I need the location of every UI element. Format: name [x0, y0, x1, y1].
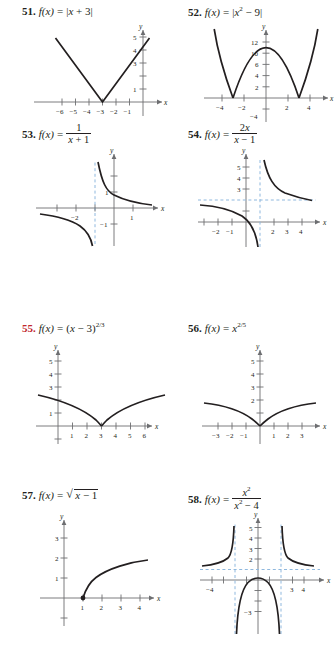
svg-text:1: 1 — [49, 410, 53, 418]
problem-58-statement: 58.f(x)=x2x2 − 4 — [188, 486, 261, 510]
svg-text:−1: −1 — [100, 221, 108, 229]
svg-text:5: 5 — [249, 525, 253, 533]
fraction-denominator: x + 1 — [66, 134, 91, 145]
problem-58-equals: = — [220, 493, 232, 505]
svg-text:12: 12 — [251, 39, 259, 47]
problem-54-fraction: 2xx − 1 — [232, 122, 257, 145]
graph-52-svg: x y −4 −2 2 4 2 — [196, 24, 336, 124]
svg-text:4: 4 — [133, 47, 137, 55]
graph-57-svg: x y 1 2 3 4 1 2 3 — [26, 510, 171, 635]
x-axis-arrow — [153, 206, 158, 211]
svg-text:3: 3 — [249, 546, 253, 554]
svg-text:−6: −6 — [56, 108, 64, 116]
x-axis-label: x — [163, 98, 168, 107]
problem-55-fn: f(x) — [39, 322, 54, 334]
x-tick-labels: −2 −1 2 3 4 — [212, 228, 303, 236]
problem-56-number: 56. — [188, 322, 205, 334]
x-axis-label: x — [326, 576, 331, 585]
graph-55-svg: x y 1 2 3 4 5 6 — [24, 344, 169, 449]
curve-left-branch — [40, 214, 93, 246]
y-axis-label: y — [241, 148, 246, 155]
problem-57-radical: x − 1 — [66, 489, 98, 501]
svg-text:4: 4 — [255, 72, 259, 80]
x-axis-arrow — [157, 100, 162, 105]
svg-text:3: 3 — [300, 432, 304, 440]
svg-text:3: 3 — [133, 60, 137, 68]
svg-text:3: 3 — [251, 384, 255, 392]
svg-text:3: 3 — [237, 186, 241, 194]
graph-53-svg: x y −2 1 1 −1 — [26, 148, 171, 250]
problem-52-statement: 52.f(x)=|x2 − 9| — [188, 6, 262, 18]
svg-text:−1: −1 — [240, 432, 248, 440]
problem-57-statement: 57.f(x)=x − 1 — [22, 489, 98, 501]
svg-text:2: 2 — [255, 84, 259, 92]
svg-text:4: 4 — [49, 371, 53, 379]
svg-text:2: 2 — [286, 432, 290, 440]
graph-54-svg: x y −2 −1 2 3 4 — [190, 148, 335, 250]
svg-text:−4: −4 — [83, 108, 91, 116]
y-axis-label: y — [253, 510, 258, 519]
x-axis-label: x — [154, 422, 159, 431]
svg-text:3: 3 — [49, 384, 53, 392]
exercise-page: 51.f(x)=|x + 3| x y −6 −5 −4 — [0, 0, 336, 645]
x-axis-arrow — [315, 220, 320, 225]
svg-text:5: 5 — [251, 358, 255, 366]
y-axis-label: y — [261, 24, 266, 31]
problem-56-expression: x2/5 — [232, 322, 246, 334]
x-axis-arrow — [315, 424, 320, 429]
x-axis-label: x — [322, 218, 327, 227]
svg-text:1: 1 — [70, 432, 74, 440]
svg-text:−2: −2 — [212, 228, 220, 236]
svg-text:3: 3 — [285, 228, 289, 236]
svg-text:2: 2 — [271, 228, 275, 236]
problem-56-fn: f(x) — [205, 322, 220, 334]
x-tick-labels: −3 −2 −1 1 2 3 — [212, 432, 304, 440]
x-tick-labels: 1 2 3 4 — [81, 604, 142, 612]
svg-text:2: 2 — [249, 556, 253, 564]
svg-text:−3: −3 — [212, 432, 220, 440]
svg-text:−3: −3 — [244, 609, 252, 617]
radicand: x − 1 — [74, 489, 98, 501]
fraction-denominator: x − 1 — [232, 134, 257, 145]
problem-55-expression: (x − 3)2/3 — [66, 322, 104, 334]
svg-text:2: 2 — [55, 555, 59, 563]
curve-outer-left — [202, 526, 234, 566]
svg-text:−2: −2 — [110, 108, 118, 116]
svg-text:−2: −2 — [71, 214, 79, 222]
problem-52-number: 52. — [188, 6, 205, 18]
x-tick-labels: −6 −5 −4 −3 −2 −1 — [56, 108, 131, 116]
x-tick-labels: −4 3 4 — [206, 586, 306, 594]
graph-51: x y −6 −5 −4 −3 −2 −1 — [30, 24, 170, 118]
svg-text:5: 5 — [49, 358, 53, 366]
graph-52: x y −4 −2 2 4 2 — [196, 24, 336, 124]
svg-text:1: 1 — [272, 432, 276, 440]
svg-text:2: 2 — [251, 397, 255, 405]
graph-56: x y −3 −2 −1 1 2 3 — [192, 344, 336, 449]
svg-text:−2: −2 — [226, 432, 234, 440]
graph-57: x y 1 2 3 4 1 2 3 — [26, 510, 171, 635]
svg-text:4: 4 — [251, 371, 255, 379]
problem-51-expression: |x + 3| — [66, 5, 93, 17]
x-axis-arrow — [319, 578, 324, 583]
y-tick-labels: 1 2 3 — [55, 535, 59, 583]
y-axis-label: y — [109, 148, 114, 155]
svg-text:2: 2 — [85, 432, 89, 440]
problem-51-number: 51. — [22, 5, 39, 17]
svg-text:−5: −5 — [70, 108, 78, 116]
y-tick-labels: 2 3 4 5 −3 — [244, 525, 253, 617]
problem-53-fraction: 1x + 1 — [66, 122, 91, 145]
endpoint-dot — [81, 596, 86, 601]
svg-text:5: 5 — [133, 34, 137, 42]
problem-52-fn: f(x) — [205, 6, 220, 18]
y-tick-labels: 1 3 4 5 — [133, 34, 137, 94]
svg-text:4: 4 — [249, 535, 253, 543]
svg-text:6: 6 — [143, 432, 147, 440]
svg-text:−2: −2 — [238, 104, 246, 112]
x-tick-labels: −4 −2 2 4 — [216, 104, 311, 112]
problem-51-statement: 51.f(x)=|x + 3| — [22, 6, 93, 17]
x-axis-arrow — [323, 96, 328, 101]
problem-57-number: 57. — [22, 489, 39, 501]
svg-text:3: 3 — [55, 535, 59, 543]
curve-left-side — [38, 395, 102, 426]
problem-52-equals: = — [220, 6, 232, 18]
